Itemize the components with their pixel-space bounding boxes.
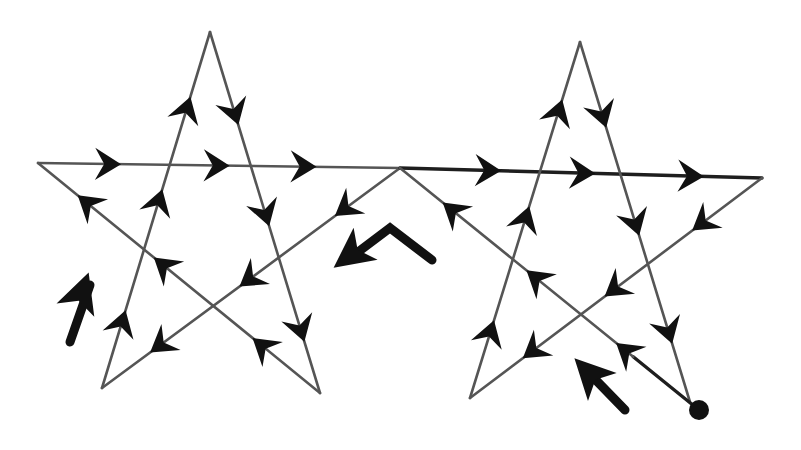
arrowhead-icon: [526, 270, 556, 299]
star-edges: [38, 32, 762, 410]
left-star-bottomleft-to-top: [102, 32, 210, 388]
arrowhead-icon: [154, 257, 184, 286]
arrowhead-icon: [605, 268, 635, 297]
start-dot-icon: [689, 400, 709, 420]
right-star-bottomright-to-left-dark-segment: [633, 357, 699, 410]
arrowhead-icon: [239, 258, 269, 286]
pentagram-path-diagram: [0, 0, 801, 450]
arrowhead-icon: [78, 195, 108, 224]
arrowhead-icon: [523, 330, 553, 359]
hint-arrow-left-star-icon: [57, 272, 95, 316]
arrowhead-icon: [616, 343, 646, 372]
arrowhead-icon: [692, 202, 722, 231]
arrowhead-icon: [253, 338, 283, 367]
arrowhead-icon: [443, 203, 473, 232]
start-point: [689, 400, 709, 420]
arrowhead-icon: [335, 188, 365, 216]
arrowhead-icon: [150, 324, 180, 352]
